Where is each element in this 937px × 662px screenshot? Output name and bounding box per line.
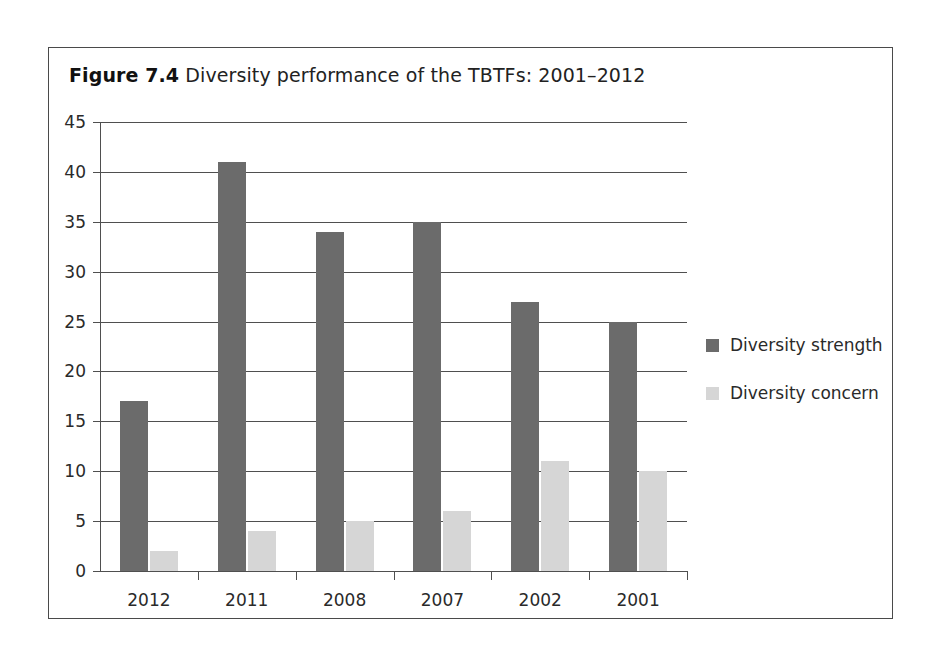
- bar-strength-2008: [316, 232, 344, 571]
- x-axis-label-2002: 2002: [519, 590, 562, 610]
- bar-group: [198, 122, 296, 571]
- bar-group: [296, 122, 394, 571]
- bar-group: [589, 122, 687, 571]
- y-axis-label: 5: [75, 511, 86, 531]
- y-axis-label: 25: [64, 312, 86, 332]
- figure-caption-label: Figure 7.4: [69, 64, 179, 86]
- figure-caption-text: Diversity performance of the TBTFs: 2001…: [185, 64, 645, 86]
- legend-label: Diversity strength: [730, 335, 883, 355]
- chart-legend: Diversity strengthDiversity concern: [706, 335, 881, 431]
- bar-concern-2001: [639, 471, 667, 571]
- y-axis-label: 20: [64, 361, 86, 381]
- y-axis-label: 40: [64, 162, 86, 182]
- bar-group: [394, 122, 492, 571]
- x-axis-tick: [687, 571, 688, 580]
- bar-strength-2012: [120, 401, 148, 571]
- x-axis-tick: [394, 571, 395, 580]
- bar-concern-2007: [443, 511, 471, 571]
- x-axis-tick: [198, 571, 199, 580]
- figure-page: Figure 7.4 Diversity performance of the …: [0, 0, 937, 662]
- chart-plot-area: 0510152025303540452012201120082007200220…: [100, 122, 687, 571]
- legend-item-concern: Diversity concern: [706, 383, 881, 403]
- x-axis-tick: [491, 571, 492, 580]
- x-axis-label-2008: 2008: [323, 590, 366, 610]
- bar-concern-2011: [248, 531, 276, 571]
- legend-label: Diversity concern: [730, 383, 879, 403]
- bar-strength-2002: [511, 302, 539, 571]
- y-axis-label: 15: [64, 411, 86, 431]
- x-axis-label-2011: 2011: [225, 590, 268, 610]
- bar-concern-2002: [541, 461, 569, 571]
- figure-caption: Figure 7.4 Diversity performance of the …: [69, 64, 645, 86]
- x-axis-label-2012: 2012: [127, 590, 170, 610]
- legend-item-strength: Diversity strength: [706, 335, 881, 355]
- y-axis-label: 35: [64, 212, 86, 232]
- y-axis-label: 45: [64, 112, 86, 132]
- y-axis-label: 30: [64, 262, 86, 282]
- x-axis-tick: [589, 571, 590, 580]
- bar-strength-2001: [609, 322, 637, 571]
- figure-frame: Figure 7.4 Diversity performance of the …: [48, 47, 893, 619]
- bar-concern-2008: [346, 521, 374, 571]
- x-axis-label-2001: 2001: [616, 590, 659, 610]
- x-axis-tick: [296, 571, 297, 580]
- bar-group: [100, 122, 198, 571]
- bar-strength-2007: [413, 222, 441, 571]
- legend-swatch-icon: [706, 339, 719, 352]
- y-axis-tick: [93, 571, 101, 572]
- y-axis-label: 10: [64, 461, 86, 481]
- bar-concern-2012: [150, 551, 178, 571]
- y-axis-label: 0: [75, 561, 86, 581]
- legend-swatch-icon: [706, 387, 719, 400]
- bar-group: [491, 122, 589, 571]
- x-axis-label-2007: 2007: [421, 590, 464, 610]
- bar-strength-2011: [218, 162, 246, 571]
